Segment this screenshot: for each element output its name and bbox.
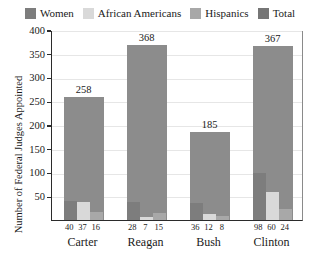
bar-segment: [266, 192, 279, 221]
x-axis-category-label: Clinton: [252, 232, 292, 249]
bar-segment: [90, 212, 103, 220]
bar-layer: 258368185367: [52, 31, 302, 220]
sub-value-label: 40: [63, 223, 76, 232]
legend-label: Hispanics: [205, 8, 248, 19]
bar-total-label: 258: [64, 84, 104, 95]
x-axis-category-label: Carter: [63, 232, 103, 249]
legend-item: Hispanics: [190, 8, 248, 19]
bar-total-label: 185: [190, 119, 230, 130]
sub-bars: [64, 31, 104, 220]
x-axis-category-label: Bush: [189, 232, 229, 249]
y-axis-tick-label: 100: [29, 168, 47, 179]
y-axis: Number of Federal Judges Appointed 40035…: [0, 31, 51, 221]
x-axis-group: 36128Bush: [189, 222, 229, 249]
sub-value-labels: 28715: [126, 222, 166, 232]
y-axis-tick-label: 350: [29, 50, 47, 61]
bar-segment: [127, 202, 140, 220]
y-axis-tick-label: 150: [29, 145, 47, 156]
legend-swatch-icon: [258, 8, 269, 19]
sub-value-label: 15: [152, 223, 165, 232]
legend-item: Total: [258, 8, 295, 19]
plot-area: 258368185367: [51, 31, 303, 221]
y-axis-tick-label: 250: [29, 97, 47, 108]
bar-chart: WomenAfrican AmericansHispanicsTotal Num…: [0, 0, 320, 262]
sub-value-label: 37: [76, 223, 89, 232]
sub-value-label: 98: [252, 223, 265, 232]
legend-label: Total: [273, 8, 295, 19]
sub-value-labels: 36128: [189, 222, 229, 232]
bar-segment: [190, 203, 203, 220]
bar-segment: [64, 201, 77, 220]
x-axis: 403716Carter28715Reagan36128Bush986024Cl…: [51, 222, 303, 260]
legend-swatch-icon: [25, 8, 36, 19]
legend-label: African Americans: [98, 8, 181, 19]
x-axis-group: 403716Carter: [63, 222, 103, 249]
bar-group: 185: [190, 31, 230, 220]
sub-value-label: 16: [89, 223, 102, 232]
sub-value-label: 60: [265, 223, 278, 232]
bar-total-label: 368: [127, 32, 167, 43]
y-axis-tick-label: 50: [35, 192, 48, 203]
bar-group: 258: [64, 31, 104, 220]
legend-swatch-icon: [190, 8, 201, 19]
sub-value-label: 7: [139, 223, 152, 232]
y-axis-tick-label: 200: [29, 121, 47, 132]
sub-bars: [253, 31, 293, 220]
sub-bars: [127, 31, 167, 220]
y-axis-title: Number of Federal Judges Appointed: [13, 62, 24, 248]
sub-value-label: 24: [278, 223, 291, 232]
chart-legend: WomenAfrican AmericansHispanicsTotal: [0, 8, 320, 19]
bar-total-label: 367: [253, 33, 293, 44]
sub-value-label: 12: [202, 223, 215, 232]
bar-segment: [140, 217, 153, 220]
sub-value-labels: 403716: [63, 222, 103, 232]
y-axis-tick-label: 300: [29, 73, 47, 84]
legend-swatch-icon: [83, 8, 94, 19]
bar-group: 367: [253, 31, 293, 220]
sub-value-label: 8: [215, 223, 228, 232]
sub-value-labels: 986024: [252, 222, 292, 232]
bar-segment: [279, 209, 292, 220]
bar-segment: [153, 213, 166, 220]
x-axis-category-label: Reagan: [126, 232, 166, 249]
bar-segment: [216, 216, 229, 220]
legend-item: African Americans: [83, 8, 181, 19]
legend-label: Women: [40, 8, 74, 19]
bar-segment: [253, 173, 266, 220]
legend-item: Women: [25, 8, 74, 19]
sub-value-label: 36: [189, 223, 202, 232]
bar-segment: [203, 214, 216, 220]
bar-segment: [77, 202, 90, 220]
x-axis-group: 28715Reagan: [126, 222, 166, 249]
x-axis-group: 986024Clinton: [252, 222, 292, 249]
sub-value-label: 28: [126, 223, 139, 232]
bar-group: 368: [127, 31, 167, 220]
y-axis-tick-label: 400: [29, 26, 47, 37]
